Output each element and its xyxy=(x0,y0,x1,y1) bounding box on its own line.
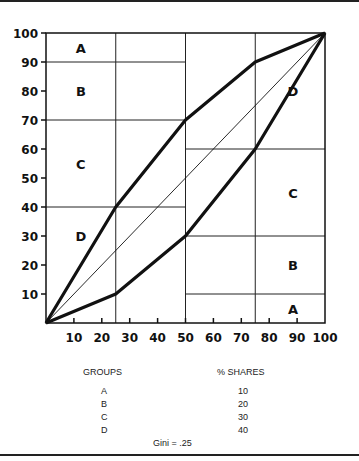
group-d: D xyxy=(101,425,108,435)
x-tick-label: 60 xyxy=(205,331,222,345)
axis-ticks xyxy=(41,33,297,323)
x-tick-label: 40 xyxy=(149,331,166,345)
lorenz-chart: 102030405060708090100 102030405060708090… xyxy=(0,0,359,350)
region-label-right: C xyxy=(288,186,298,201)
x-tick-label: 10 xyxy=(66,331,83,345)
groups-header: GROUPS xyxy=(83,367,122,377)
x-tick-label: 80 xyxy=(261,331,278,345)
y-tick-label: 80 xyxy=(21,85,38,99)
y-tick-label: 100 xyxy=(13,27,38,41)
region-label-right: A xyxy=(288,302,298,317)
share-c: 30 xyxy=(238,412,248,422)
x-tick-label: 90 xyxy=(289,331,306,345)
x-tick-label: 20 xyxy=(93,331,110,345)
region-label-left: D xyxy=(75,229,86,244)
shares-header: % SHARES xyxy=(217,367,265,377)
group-a: A xyxy=(101,386,107,396)
y-tick-label: 10 xyxy=(21,288,38,302)
group-c: C xyxy=(101,412,108,422)
y-axis-labels: 102030405060708090100 xyxy=(13,27,38,302)
x-tick-label: 70 xyxy=(233,331,250,345)
share-b: 20 xyxy=(238,399,248,409)
region-label-left: C xyxy=(76,157,86,172)
y-tick-label: 50 xyxy=(21,172,38,186)
region-label-left: A xyxy=(76,41,86,56)
x-tick-label: 50 xyxy=(177,331,194,345)
region-label-right: B xyxy=(288,258,298,273)
y-tick-label: 70 xyxy=(21,114,38,128)
x-tick-label: 100 xyxy=(312,331,337,345)
share-d: 40 xyxy=(238,425,248,435)
y-tick-label: 30 xyxy=(21,230,38,244)
y-tick-label: 40 xyxy=(21,201,38,215)
share-a: 10 xyxy=(238,386,248,396)
x-tick-label: 30 xyxy=(121,331,138,345)
region-labels: ABCDDCBA xyxy=(75,41,298,317)
y-tick-label: 60 xyxy=(21,143,38,157)
group-b: B xyxy=(101,399,107,409)
x-axis-labels: 102030405060708090100 xyxy=(66,331,338,345)
bottom-rule xyxy=(0,454,359,456)
y-tick-label: 20 xyxy=(21,259,38,273)
y-tick-label: 90 xyxy=(21,56,38,70)
region-label-left: B xyxy=(76,84,86,99)
gini-coefficient: Gini = .25 xyxy=(153,438,192,448)
